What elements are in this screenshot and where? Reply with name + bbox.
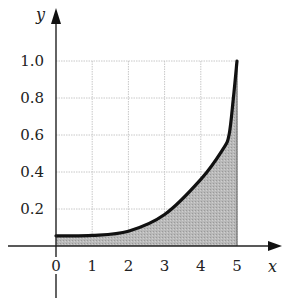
y-tick-labels: 0.20.40.60.81.0 <box>20 52 44 218</box>
chart: 012345 0.20.40.60.81.0 x y <box>0 0 285 300</box>
y-axis-arrow-icon <box>51 8 61 24</box>
svg-text:0.2: 0.2 <box>20 200 44 218</box>
svg-text:0.4: 0.4 <box>20 163 44 181</box>
svg-text:5: 5 <box>232 257 242 275</box>
svg-text:1.0: 1.0 <box>20 52 44 70</box>
chart-canvas: 012345 0.20.40.60.81.0 x y <box>0 0 285 300</box>
svg-text:0.8: 0.8 <box>20 89 44 107</box>
svg-text:0.6: 0.6 <box>20 126 44 144</box>
svg-text:2: 2 <box>124 257 134 275</box>
svg-text:4: 4 <box>196 257 206 275</box>
y-axis <box>51 8 61 298</box>
y-axis-label: y <box>35 5 46 24</box>
svg-text:0: 0 <box>51 257 61 275</box>
x-tick-labels: 012345 <box>51 257 242 275</box>
svg-text:3: 3 <box>160 257 170 275</box>
svg-text:1: 1 <box>87 257 97 275</box>
shaded-area <box>56 61 237 246</box>
x-axis-label: x <box>268 257 277 276</box>
x-axis-arrow-icon <box>268 241 282 251</box>
